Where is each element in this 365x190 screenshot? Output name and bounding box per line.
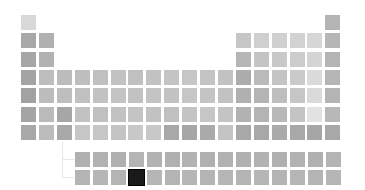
element-cell-mt[interactable] (164, 125, 179, 140)
element-cell-ne[interactable] (325, 33, 340, 48)
element-cell-sr[interactable] (39, 88, 54, 103)
element-cell-ni[interactable] (182, 70, 197, 85)
element-cell-es[interactable] (254, 170, 269, 185)
element-cell-rf[interactable] (75, 125, 90, 140)
element-cell-ti[interactable] (75, 70, 90, 85)
element-cell-ar[interactable] (325, 52, 340, 67)
element-cell-mg[interactable] (39, 52, 54, 67)
element-cell-lv[interactable] (290, 125, 305, 140)
element-cell-ir[interactable] (164, 107, 179, 122)
element-cell-cn[interactable] (218, 125, 233, 140)
element-cell-rh[interactable] (164, 88, 179, 103)
element-cell-u-prev[interactable] (111, 170, 126, 185)
element-cell-gd[interactable] (182, 152, 197, 167)
element-cell-nh[interactable] (236, 125, 251, 140)
element-cell-be[interactable] (39, 33, 54, 48)
element-cell-zn[interactable] (218, 70, 233, 85)
element-cell-b[interactable] (236, 33, 251, 48)
element-cell-br[interactable] (307, 70, 322, 85)
element-cell-hg[interactable] (218, 107, 233, 122)
element-cell-ba[interactable] (39, 107, 54, 122)
element-cell-te[interactable] (290, 88, 305, 103)
element-cell-la[interactable] (57, 107, 72, 122)
element-cell-p[interactable] (272, 52, 287, 67)
element-cell-v[interactable] (93, 70, 108, 85)
element-cell-md[interactable] (290, 170, 305, 185)
element-cell-ce[interactable] (75, 152, 90, 167)
element-cell-sn[interactable] (254, 88, 269, 103)
element-cell-ho[interactable] (236, 152, 251, 167)
element-cell-ga[interactable] (236, 70, 251, 85)
element-cell-rn[interactable] (325, 107, 340, 122)
element-cell-rg[interactable] (200, 125, 215, 140)
element-cell-hf[interactable] (75, 107, 90, 122)
element-cell-fl[interactable] (254, 125, 269, 140)
element-cell-ds[interactable] (182, 125, 197, 140)
element-cell-cr[interactable] (111, 70, 126, 85)
element-cell-bi[interactable] (272, 107, 287, 122)
element-cell-kr[interactable] (325, 70, 340, 85)
element-cell-f[interactable] (307, 33, 322, 48)
element-cell-ge[interactable] (254, 70, 269, 85)
element-cell-ru[interactable] (146, 88, 161, 103)
element-cell-fe[interactable] (146, 70, 161, 85)
element-cell-rb[interactable] (21, 88, 36, 103)
element-cell-si[interactable] (254, 52, 269, 67)
element-cell-pd[interactable] (182, 88, 197, 103)
element-cell-zr[interactable] (75, 88, 90, 103)
element-cell-tl[interactable] (236, 107, 251, 122)
element-cell-n[interactable] (272, 33, 287, 48)
element-cell-os[interactable] (146, 107, 161, 122)
element-cell-c[interactable] (254, 33, 269, 48)
element-cell-ag[interactable] (200, 88, 215, 103)
element-cell-sc[interactable] (57, 70, 72, 85)
element-cell-po[interactable] (290, 107, 305, 122)
element-cell-he[interactable] (325, 15, 340, 30)
element-cell-og[interactable] (325, 125, 340, 140)
element-cell-ts[interactable] (307, 125, 322, 140)
element-cell-dy[interactable] (218, 152, 233, 167)
element-cell-at[interactable] (307, 107, 322, 122)
element-cell-mn[interactable] (128, 70, 143, 85)
element-cell-as[interactable] (272, 70, 287, 85)
element-cell-nb[interactable] (93, 88, 108, 103)
element-cell-bh[interactable] (128, 125, 143, 140)
element-cell-pm[interactable] (129, 152, 144, 167)
element-cell-mc[interactable] (272, 125, 287, 140)
element-cell-k[interactable] (21, 70, 36, 85)
element-cell-no[interactable] (308, 170, 323, 185)
element-cell-li[interactable] (21, 33, 36, 48)
element-cell-er[interactable] (254, 152, 269, 167)
element-cell-mo[interactable] (111, 88, 126, 103)
element-cell-pt[interactable] (182, 107, 197, 122)
element-cell-u[interactable] (129, 170, 144, 185)
element-cell-w[interactable] (111, 107, 126, 122)
element-cell-cs[interactable] (21, 107, 36, 122)
element-cell-sm[interactable] (147, 152, 162, 167)
element-cell-fm[interactable] (272, 170, 287, 185)
element-cell-bk[interactable] (218, 170, 233, 185)
element-cell-db[interactable] (93, 125, 108, 140)
element-cell-o[interactable] (290, 33, 305, 48)
element-cell-fr[interactable] (21, 125, 36, 140)
element-cell-—[interactable] (326, 152, 341, 167)
element-cell-na[interactable] (21, 52, 36, 67)
element-cell-sg[interactable] (111, 125, 126, 140)
element-cell-np[interactable] (147, 170, 162, 185)
element-cell-pa[interactable] (93, 170, 108, 185)
element-cell-am[interactable] (182, 170, 197, 185)
element-cell-ta[interactable] (93, 107, 108, 122)
element-cell-ca[interactable] (39, 70, 54, 85)
element-cell-i[interactable] (307, 88, 322, 103)
element-cell-xe[interactable] (325, 88, 340, 103)
element-cell-cl[interactable] (307, 52, 322, 67)
element-cell-pu[interactable] (165, 170, 180, 185)
element-cell-se[interactable] (290, 70, 305, 85)
element-cell-ac[interactable] (57, 125, 72, 140)
element-cell-nd[interactable] (111, 152, 126, 167)
element-cell-eu[interactable] (165, 152, 180, 167)
element-cell-au[interactable] (200, 107, 215, 122)
element-cell-cd[interactable] (218, 88, 233, 103)
element-cell-sb[interactable] (272, 88, 287, 103)
element-cell-al[interactable] (236, 52, 251, 67)
